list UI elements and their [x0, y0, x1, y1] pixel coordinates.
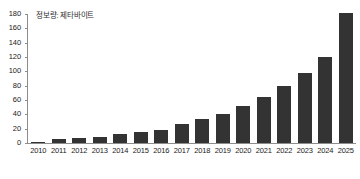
bar-slot	[69, 14, 90, 143]
bar-slot	[28, 14, 49, 143]
bar	[52, 139, 66, 143]
x-axis-label: 2015	[131, 146, 152, 155]
bar-slot	[336, 14, 357, 143]
bar	[113, 134, 127, 143]
x-axis-label: 2019	[213, 146, 234, 155]
bar	[298, 73, 312, 143]
bar-slot	[295, 14, 316, 143]
bar	[93, 137, 107, 143]
x-axis-label: 2020	[233, 146, 254, 155]
bar	[175, 124, 189, 143]
y-axis-tick-label: 40	[13, 109, 21, 118]
bar	[134, 132, 148, 143]
bar	[31, 142, 45, 143]
y-axis-tick-label: 140	[9, 38, 21, 47]
x-axis-label: 2025	[336, 146, 357, 155]
bar-slot	[90, 14, 111, 143]
bar	[257, 97, 271, 143]
x-axis-label: 2024	[315, 146, 336, 155]
bar	[318, 57, 332, 143]
x-axis-label: 2022	[274, 146, 295, 155]
x-axis-label: 2018	[192, 146, 213, 155]
bar-chart: 정보량: 제타바이트 020406080100120140160180 2010…	[0, 0, 360, 179]
bar-slot	[233, 14, 254, 143]
x-axis-label: 2016	[151, 146, 172, 155]
x-axis-label: 2013	[90, 146, 111, 155]
bar-slot	[274, 14, 295, 143]
bar	[72, 138, 86, 143]
x-axis-label: 2011	[49, 146, 70, 155]
bar-slot	[192, 14, 213, 143]
y-axis-tick-label: 60	[13, 95, 21, 104]
y-axis-tick-label: 180	[9, 9, 21, 18]
bar-series	[28, 14, 356, 143]
bar-slot	[254, 14, 275, 143]
y-axis-tick-label: 0	[17, 138, 21, 147]
bar	[195, 119, 209, 143]
y-axis-tick-label: 20	[13, 124, 21, 133]
bar	[154, 130, 168, 143]
bar-slot	[49, 14, 70, 143]
x-axis-label: 2010	[28, 146, 49, 155]
bar	[216, 114, 230, 143]
y-axis-tick-label: 100	[9, 66, 21, 75]
y-axis-tick-label: 160	[9, 23, 21, 32]
x-axis-label: 2017	[172, 146, 193, 155]
bar	[277, 86, 291, 143]
bar-slot	[131, 14, 152, 143]
bar	[339, 13, 353, 143]
bar-slot	[172, 14, 193, 143]
x-axis-label: 2012	[69, 146, 90, 155]
bar-slot	[315, 14, 336, 143]
x-axis-line	[27, 143, 356, 144]
bar-slot	[213, 14, 234, 143]
x-axis-label: 2021	[254, 146, 275, 155]
bar	[236, 106, 250, 143]
x-axis-label: 2014	[110, 146, 131, 155]
bar-slot	[110, 14, 131, 143]
y-axis-tick-mark	[25, 143, 28, 144]
x-axis-label: 2023	[295, 146, 316, 155]
y-axis-tick-label: 80	[13, 81, 21, 90]
x-axis-labels: 2010201120122013201420152016201720182019…	[28, 146, 356, 160]
y-axis-tick-label: 120	[9, 52, 21, 61]
bar-slot	[151, 14, 172, 143]
